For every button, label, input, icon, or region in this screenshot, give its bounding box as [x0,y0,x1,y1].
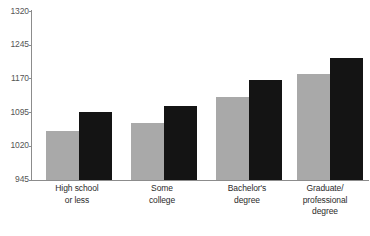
x-axis-category-labels: High school or less Some college Bachelo… [31,183,369,236]
y-tick-label-1095: 1095 [1,108,29,117]
bar-graduate-black [330,58,363,180]
category-label-line: Some [118,183,206,195]
category-label-line: Graduate/ [281,183,369,195]
y-tick-label-1320: 1320 [1,7,29,16]
category-label-some-college: Some college [118,183,206,206]
bar-chart: 1320 1245 1170 1095 1020 945 High school… [0,0,370,236]
category-label-line: Bachelor's [203,183,291,195]
category-label-line: High school [33,183,121,195]
x-axis-line [31,180,369,181]
category-label-graduate: Graduate/ professional degree [281,183,369,218]
category-label-line: degree [281,206,369,218]
bar-high-school-gray [46,131,79,180]
y-tick-mark-945 [29,180,31,181]
bar-some-college-black [164,106,197,180]
bar-bachelors-gray [216,97,249,180]
y-tick-label-945: 945 [1,175,29,184]
plot-area [31,10,369,180]
bars-layer [31,10,369,180]
category-label-line: professional [281,195,369,207]
category-label-bachelors: Bachelor's degree [203,183,291,206]
y-axis-tick-labels: 1320 1245 1170 1095 1020 945 [0,0,29,236]
bar-high-school-black [79,112,112,180]
y-tick-label-1245: 1245 [1,40,29,49]
bar-some-college-gray [131,123,164,180]
category-label-line: degree [203,195,291,207]
category-label-line: college [118,195,206,207]
bar-bachelors-black [249,80,282,180]
y-tick-label-1020: 1020 [1,141,29,150]
category-label-line: or less [33,195,121,207]
bar-graduate-gray [297,74,330,180]
category-label-high-school: High school or less [33,183,121,206]
y-tick-label-1170: 1170 [1,74,29,83]
